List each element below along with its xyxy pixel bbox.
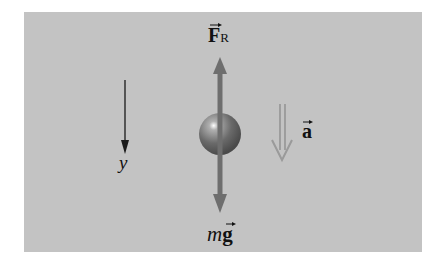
acceleration-label: a bbox=[302, 120, 312, 143]
weight-label: mg bbox=[207, 222, 233, 247]
acceleration-arrow-icon bbox=[272, 104, 292, 160]
y-axis-label: y bbox=[119, 152, 127, 174]
resistance-force-label: FR bbox=[208, 24, 229, 47]
y-axis-arrow-icon bbox=[121, 80, 129, 154]
